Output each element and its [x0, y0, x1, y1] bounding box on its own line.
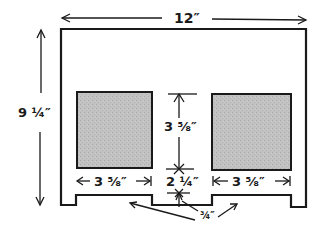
right-window-width-label: 3 ⅝″ — [232, 175, 265, 188]
overall-height-label: 9 ¼″ — [18, 106, 51, 119]
gap-width-label: 2 ¼″ — [166, 175, 199, 188]
left-window-width-label: 3 ⅝″ — [94, 175, 127, 188]
notch-depth-label: ¾″ — [200, 211, 215, 221]
window-height-dimension — [166, 94, 197, 174]
left-window-panel — [77, 92, 152, 168]
right-window-panel — [212, 94, 291, 170]
overall-width-label: 12″ — [174, 11, 200, 25]
window-height-label: 3 ⅝″ — [164, 120, 197, 133]
